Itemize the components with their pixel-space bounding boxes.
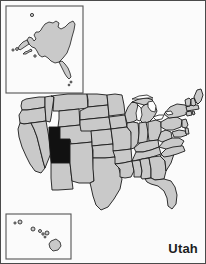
state-idaho (45, 96, 54, 122)
state-rhode-island (192, 111, 195, 115)
hawaii-big-island-shape (49, 239, 61, 251)
alaska-southwest-peninsula-shape (18, 40, 29, 50)
state-indiana (138, 122, 148, 143)
state-connecticut (186, 111, 192, 116)
state-new-jersey (182, 119, 188, 128)
alaska-island-3-shape (30, 13, 33, 16)
hawaii-niihau-shape (14, 222, 16, 224)
alaska-shape-group (12, 13, 75, 86)
contiguous-us-group (18, 89, 203, 210)
alaska-island-5-shape (70, 81, 72, 83)
state-name-label: Utah (168, 242, 198, 255)
state-arizona (51, 163, 73, 190)
alaska-island-2-shape (12, 49, 14, 51)
alaska-inset (6, 6, 83, 93)
hawaii-kauai-shape (18, 220, 22, 224)
state-delaware (185, 128, 189, 134)
state-maryland (172, 130, 187, 137)
state-wyoming (58, 109, 80, 127)
state-pennsylvania (161, 117, 182, 130)
state-florida (145, 178, 177, 209)
alaska-panhandle-shape (59, 61, 71, 79)
state-nebraska (80, 117, 111, 131)
lake-superior-water (132, 95, 153, 99)
hawaii-shape-group (14, 220, 61, 251)
state-vermont (185, 98, 191, 106)
state-montana (51, 94, 88, 111)
alaska-aleutian-chain-shape (23, 49, 32, 54)
state-new-york (164, 104, 189, 118)
state-minnesota (107, 94, 125, 116)
alaska-island-1-shape (16, 48, 19, 51)
alaska-island-6-shape (68, 84, 70, 86)
hawaii-kahoolawe-shape (44, 236, 46, 238)
state-missouri (111, 127, 132, 151)
state-oklahoma (92, 144, 115, 158)
hawaii-maui-shape (45, 231, 49, 235)
hawaii-lanai-shape (42, 233, 44, 235)
hawaii-inset (6, 214, 71, 259)
state-kansas (91, 129, 113, 146)
alaska-island-4-shape (34, 55, 36, 57)
state-locator-map-figure: Utah (0, 0, 206, 264)
state-new-mexico (70, 142, 94, 183)
hawaii-oahu-shape (31, 227, 35, 231)
hawaii-inset-frame (6, 214, 71, 259)
hawaii-molokai-shape (39, 230, 42, 233)
map-canvas (1, 1, 206, 264)
